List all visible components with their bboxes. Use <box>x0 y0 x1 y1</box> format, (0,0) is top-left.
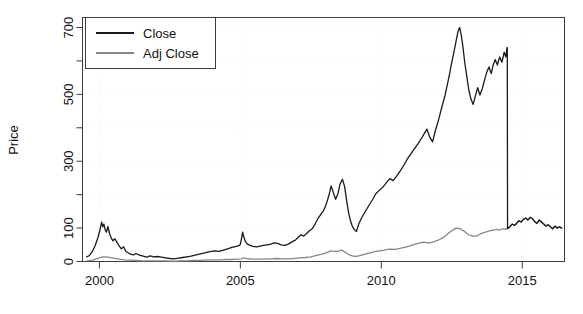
y-tick-label: 500 <box>61 84 76 106</box>
chart-legend[interactable]: Close Adj Close <box>86 18 216 69</box>
y-tick-label: 0 <box>61 258 76 265</box>
x-tick-label: 2015 <box>508 273 537 288</box>
stock-price-chart: 0100300500700 2000200520102015 Price Clo… <box>0 0 583 314</box>
legend-label-close: Close <box>143 26 176 41</box>
x-tick-label: 2000 <box>85 273 114 288</box>
y-tick-label: 700 <box>61 17 76 39</box>
y-axis-title: Price <box>6 125 21 155</box>
x-tick-label: 2005 <box>226 273 255 288</box>
legend-label-adj-close: Adj Close <box>143 46 199 61</box>
y-axis-title-group: Price <box>6 125 21 155</box>
chart-canvas: 0100300500700 2000200520102015 Price Clo… <box>0 0 583 314</box>
y-tick-label: 300 <box>61 150 76 172</box>
y-tick-label: 100 <box>61 217 76 239</box>
x-tick-label: 2010 <box>367 273 396 288</box>
